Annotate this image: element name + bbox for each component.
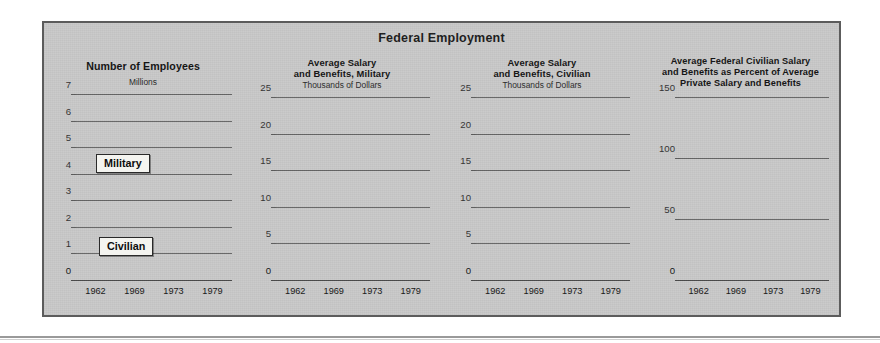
y-axis-tick-label: 15 [460, 155, 471, 166]
y-axis-tick-label: 5 [66, 132, 71, 143]
y-axis-tick-label: 100 [659, 143, 675, 154]
chart-title-line: Average Federal Civilian Salary [646, 56, 835, 67]
bar-slot [722, 98, 749, 281]
page-rule [0, 336, 880, 338]
plot-area: 0510152025 1962196919731979 [276, 98, 430, 281]
bar-slot [159, 95, 189, 281]
x-axis-labels: 1962196919731979 [476, 286, 630, 296]
chart-title: Number of Employees [48, 61, 238, 72]
charts-container: Number of Employees Millions 01234567 19… [44, 51, 839, 315]
bar-slot [521, 98, 547, 281]
y-axis-tick-label: 2 [66, 211, 71, 222]
bar-slot [359, 98, 385, 281]
x-axis-tick-label: 1962 [282, 286, 308, 296]
y-axis-tick-label: 20 [460, 118, 471, 129]
x-axis-tick-label: 1962 [685, 286, 712, 296]
y-axis-tick-label: 0 [466, 265, 471, 276]
bar-group [276, 98, 430, 281]
y-axis-tick-label: 5 [266, 228, 271, 239]
figure-panel: Federal Employment Number of Employees M… [42, 21, 841, 317]
bar-slot [398, 98, 424, 281]
x-axis-tick-label: 1969 [321, 286, 347, 296]
bar-slot [559, 98, 585, 281]
chart-federal-vs-private-percent: Average Federal Civilian Salaryand Benef… [642, 51, 839, 315]
y-axis-tick-label: 1 [66, 238, 71, 249]
plot-area: 050100150 1962196919731979 [680, 98, 829, 281]
x-axis-labels: 1962196919731979 [680, 286, 829, 296]
legend-callout-civilian: Civilian [99, 237, 153, 256]
y-axis-tick-label: 4 [66, 158, 71, 169]
y-axis-tick-label: 10 [260, 191, 271, 202]
chart-number-of-employees: Number of Employees Millions 01234567 19… [44, 51, 242, 315]
y-axis-tick-label: 0 [66, 265, 71, 276]
chart-avg-salary-military: Average Salaryand Benefits, Military Tho… [242, 51, 442, 315]
chart-title-line: and Benefits as Percent of Average [646, 67, 835, 78]
chart-title: Average Salaryand Benefits, Military [246, 57, 438, 79]
page-rule-shadow [0, 339, 880, 340]
x-axis-tick-label: 1969 [120, 286, 150, 296]
bar-slot [760, 98, 787, 281]
chart-subtitle: Thousands of Dollars [246, 80, 438, 90]
x-axis-tick-label: 1979 [198, 286, 228, 296]
x-axis-tick-label: 1979 [797, 286, 824, 296]
y-axis-tick-label: 0 [670, 265, 675, 276]
x-axis-tick-label: 1973 [760, 286, 787, 296]
plot-area: 0510152025 1962196919731979 [476, 98, 630, 281]
chart-subtitle: Millions [48, 77, 238, 87]
bar-group [476, 98, 630, 281]
bar-slot [685, 98, 712, 281]
x-axis-labels: 1962196919731979 [76, 286, 232, 296]
bar-slot [598, 98, 624, 281]
x-axis-tick-label: 1969 [521, 286, 547, 296]
x-axis-tick-label: 1969 [722, 286, 749, 296]
x-axis-tick-label: 1979 [598, 286, 624, 296]
x-axis-tick-label: 1962 [482, 286, 508, 296]
chart-title-line: Average Salary [446, 57, 638, 68]
x-axis-tick-label: 1979 [398, 286, 424, 296]
bar-group [680, 98, 829, 281]
y-axis-tick-label: 0 [266, 265, 271, 276]
chart-avg-salary-civilian: Average Salaryand Benefits, Civilian Tho… [442, 51, 642, 315]
chart-title-line: Average Salary [246, 57, 438, 68]
y-axis-tick-label: 50 [664, 204, 675, 215]
y-axis-tick-label: 7 [66, 79, 71, 90]
y-axis-tick-label: 6 [66, 105, 71, 116]
y-axis-tick-label: 150 [659, 82, 675, 93]
chart-title-line: and Benefits, Military [246, 68, 438, 79]
legend-callout-military: Military [96, 154, 150, 173]
bar-slot [321, 98, 347, 281]
y-axis-tick-label: 3 [66, 185, 71, 196]
x-axis-tick-label: 1973 [359, 286, 385, 296]
bar-slot [797, 98, 824, 281]
chart-title: Average Salaryand Benefits, Civilian [446, 57, 638, 79]
chart-subtitle: Thousands of Dollars [446, 80, 638, 90]
figure-title: Federal Employment [44, 31, 839, 45]
bar-slot [282, 98, 308, 281]
y-axis-tick-label: 10 [460, 191, 471, 202]
y-axis-tick-label: 20 [260, 118, 271, 129]
x-axis-tick-label: 1973 [159, 286, 189, 296]
y-axis-tick-label: 15 [260, 155, 271, 166]
x-axis-tick-label: 1962 [81, 286, 111, 296]
x-axis-labels: 1962196919731979 [276, 286, 430, 296]
bar-slot [482, 98, 508, 281]
y-axis-tick-label: 5 [466, 228, 471, 239]
y-axis-tick-label: 25 [460, 82, 471, 93]
chart-title-line: and Benefits, Civilian [446, 68, 638, 79]
bar-slot [198, 95, 228, 281]
x-axis-tick-label: 1973 [559, 286, 585, 296]
y-axis-tick-label: 25 [260, 82, 271, 93]
